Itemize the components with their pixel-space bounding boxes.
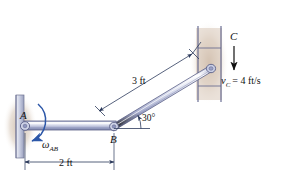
figure-canvas: A B C 30° 2 ft 3 ft ωAB vC= 4 ft/s: [0, 0, 283, 177]
pin-joint-a: [20, 122, 29, 131]
label-dim-bc: 3 ft: [132, 75, 146, 86]
collar-pin-c: [206, 64, 215, 72]
pin-joint-b: [110, 122, 119, 130]
label-point-b: B: [110, 133, 117, 145]
omega-subscript: AB: [48, 145, 58, 153]
label-angle-30: 30°: [142, 113, 156, 123]
omega-symbol: ω: [42, 139, 49, 150]
label-omega-ab: ωAB: [42, 139, 59, 153]
velocity-equation: = 4 ft/s: [232, 75, 261, 86]
svg-text:ωAB: ωAB: [42, 139, 59, 153]
label-point-c: C: [230, 30, 238, 42]
kinematics-figure: A B C 30° 2 ft 3 ft ωAB vC= 4 ft/s: [0, 0, 283, 177]
slot-guide-c: [196, 26, 222, 102]
velocity-subscript: C: [226, 81, 231, 89]
label-point-a: A: [19, 109, 27, 121]
label-dim-ab: 2 ft: [59, 157, 73, 168]
link-ab: [24, 121, 116, 130]
